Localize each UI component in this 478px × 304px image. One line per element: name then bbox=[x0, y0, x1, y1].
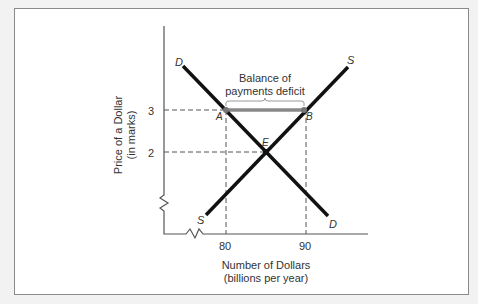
label-e: E bbox=[262, 137, 269, 148]
y-tick-3: 3 bbox=[148, 105, 154, 117]
y-tick-2: 2 bbox=[148, 147, 154, 159]
label-b: B bbox=[306, 111, 313, 122]
axes bbox=[160, 26, 368, 238]
x-axis-title-line2: (billions per year) bbox=[224, 272, 308, 284]
label-d-bottom: D bbox=[329, 218, 337, 230]
y-axis-title-line2: (in marks) bbox=[125, 111, 137, 160]
x-tick-80: 80 bbox=[219, 240, 231, 252]
label-s-top: S bbox=[347, 54, 355, 66]
label-s-bottom: S bbox=[197, 214, 205, 226]
label-d-top: D bbox=[175, 56, 183, 68]
x-tick-90: 90 bbox=[299, 240, 311, 252]
y-axis-title-line1: Price of a Dollar bbox=[112, 96, 124, 175]
annotation-line1: Balance of bbox=[239, 72, 292, 84]
point-e bbox=[263, 149, 269, 155]
label-a: A bbox=[215, 111, 223, 122]
supply-demand-chart: 3 2 80 90 Number of Dollars (billions pe… bbox=[0, 0, 478, 304]
x-axis-title-line1: Number of Dollars bbox=[222, 259, 311, 271]
point-a bbox=[223, 107, 229, 113]
brace bbox=[226, 98, 304, 106]
annotation-line2: payments deficit bbox=[225, 85, 304, 97]
